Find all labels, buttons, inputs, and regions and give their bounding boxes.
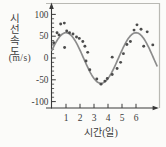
- data-point: [111, 56, 114, 59]
- data-point: [111, 73, 114, 76]
- data-point: [63, 22, 66, 25]
- y-tick-label: 0: [44, 53, 49, 63]
- data-point: [58, 33, 61, 36]
- y-tick-label: 100: [35, 10, 49, 20]
- data-point: [81, 40, 84, 43]
- data-point: [56, 31, 59, 34]
- data-point: [68, 31, 71, 34]
- data-point: [106, 77, 109, 80]
- data-point: [125, 43, 128, 46]
- data-point: [100, 83, 103, 86]
- x-tick-label: 4: [106, 113, 111, 123]
- radial-velocity-chart: 시 선 속 도 (m/s) 100500-50-100123456 시간(일): [0, 0, 166, 147]
- data-point: [133, 29, 136, 32]
- data-point: [75, 36, 78, 39]
- data-point: [142, 45, 145, 48]
- data-point: [59, 23, 62, 26]
- data-point: [116, 67, 119, 70]
- data-point: [83, 45, 86, 48]
- y-tick-label: -100: [31, 97, 48, 107]
- x-tick-label: 2: [78, 113, 83, 123]
- data-point: [52, 41, 55, 44]
- data-point: [65, 30, 68, 33]
- data-point: [85, 60, 88, 63]
- data-point: [122, 52, 125, 55]
- data-point: [146, 30, 149, 33]
- data-point: [119, 61, 122, 64]
- y-tick-label: 50: [39, 31, 49, 41]
- x-axis-arrow-icon: [153, 106, 159, 110]
- data-point: [86, 51, 89, 54]
- x-tick-label: 5: [120, 113, 125, 123]
- data-point: [151, 43, 154, 46]
- y-tick-label: -50: [36, 75, 49, 85]
- data-point: [78, 37, 81, 40]
- data-point: [95, 77, 98, 80]
- plot-frame: [46, 4, 160, 109]
- data-point: [136, 23, 139, 26]
- data-point: [72, 33, 75, 36]
- x-tick-label: 1: [64, 113, 69, 123]
- x-tick-label: 6: [134, 113, 139, 123]
- data-point: [129, 40, 132, 43]
- fit-curve: [52, 33, 157, 84]
- x-tick-label: 3: [92, 113, 97, 123]
- data-point: [88, 68, 91, 71]
- x-axis-label: 시간(일): [66, 124, 136, 139]
- data-point: [140, 28, 143, 31]
- data-point: [63, 46, 66, 49]
- data-point: [103, 80, 106, 83]
